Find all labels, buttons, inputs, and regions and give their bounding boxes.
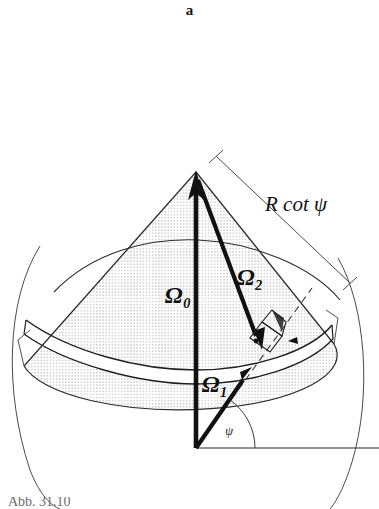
label-omega-0: Ω₀ [165,282,191,308]
figure-caption-text: Abb. 31.10 [8,497,71,509]
diagram-svg: Ω₀ Ω₂ Ω₁ R cot ψ ψ [0,0,379,509]
label-omega-2: Ω₂ [237,264,263,290]
figure-caption: Abb. 31.10 [8,497,188,509]
label-psi-angle: ψ [225,423,234,438]
label-r-cot-psi: R cot ψ [264,192,328,216]
angle-arc-psi [230,400,255,448]
label-omega-1: Ω₁ [202,371,228,397]
figure-root: a [0,0,379,509]
